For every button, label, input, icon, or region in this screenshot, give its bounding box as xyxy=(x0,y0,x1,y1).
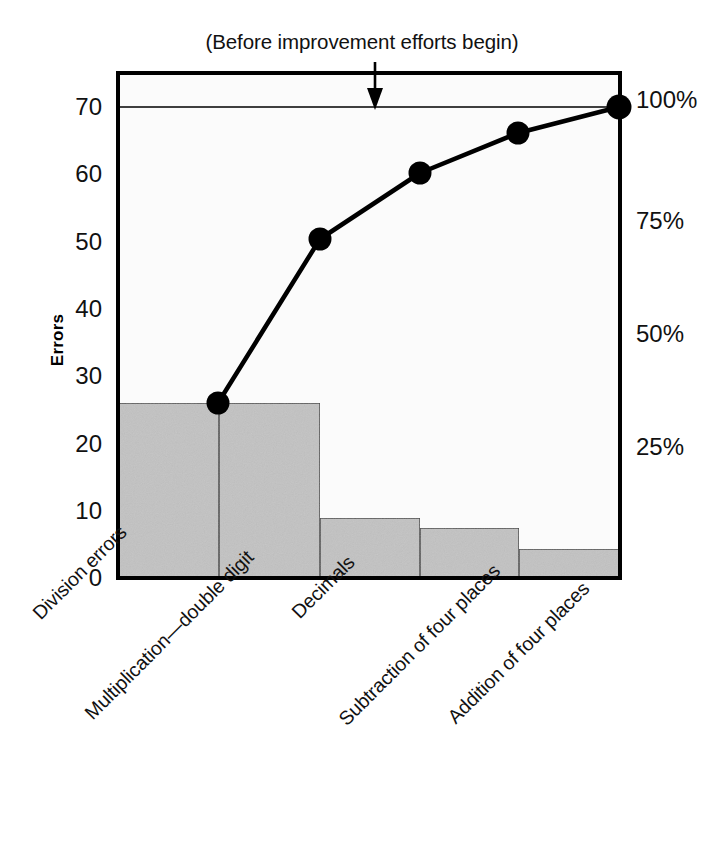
bar-division-errors xyxy=(118,403,219,578)
pareto-chart: (Before improvement efforts begin) Error… xyxy=(0,0,724,852)
marker-division-errors xyxy=(207,392,230,415)
marker-decimals xyxy=(409,162,432,185)
bar-multiplication-double-digit xyxy=(219,403,320,578)
bar-subtraction-of-four-places xyxy=(420,528,519,578)
marker-subtraction-of-four-places xyxy=(507,122,530,145)
marker-multiplication-double-digit xyxy=(309,228,332,251)
bar-addition-of-four-places xyxy=(519,549,620,578)
plot-area xyxy=(0,0,724,852)
